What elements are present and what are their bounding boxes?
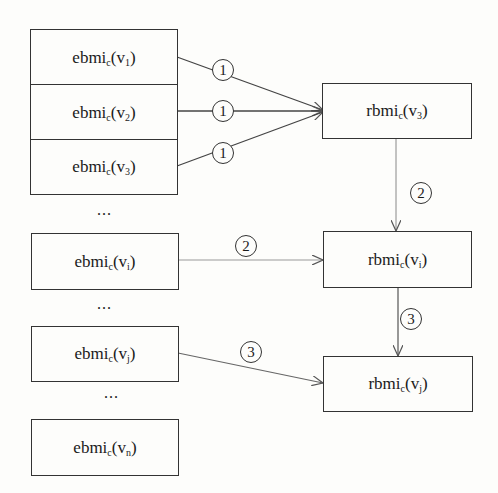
node-label: rbmic(v3): [366, 101, 427, 121]
ellipsis-2: ...: [97, 295, 112, 313]
edge-e1-r3: [177, 57, 323, 110]
ebmi-v1-node: ebmic(v1): [30, 29, 178, 86]
node-label: ebmic(v1): [72, 48, 135, 68]
ebmi-vi-node: ebmic(vi): [31, 233, 179, 290]
step-label-1c: 1: [212, 142, 234, 164]
node-label: rbmic(vi): [368, 250, 427, 270]
ellipsis-1: ...: [97, 201, 112, 219]
node-label: ebmic(v2): [72, 103, 135, 123]
step-label-3b: 3: [240, 341, 262, 363]
step-label-2b: 2: [235, 235, 257, 257]
rbmi-vi-node: rbmic(vi): [323, 231, 472, 288]
ebmi-v3-node: ebmic(v3): [30, 139, 178, 195]
step-label-1a: 1: [212, 59, 234, 81]
ebmi-v2-node: ebmic(v2): [30, 84, 178, 141]
step-label-3a: 3: [400, 308, 422, 330]
step-label-2a: 2: [410, 182, 432, 204]
node-label: ebmic(vj): [74, 344, 135, 364]
step-label-1b: 1: [212, 100, 234, 122]
node-label: rbmic(vj): [368, 374, 427, 394]
node-label: ebmic(v3): [72, 157, 135, 177]
ellipsis-3: ...: [104, 384, 119, 402]
ebmi-vn-node: ebmic(vn): [31, 419, 179, 476]
ebmi-vj-node: ebmic(vj): [31, 326, 179, 382]
edge-e3-r3: [177, 112, 323, 166]
node-label: ebmic(vn): [73, 438, 136, 458]
rbmi-vj-node: rbmic(vj): [323, 356, 473, 412]
rbmi-v3-node: rbmic(v3): [322, 83, 472, 139]
node-label: ebmic(vi): [74, 252, 135, 272]
